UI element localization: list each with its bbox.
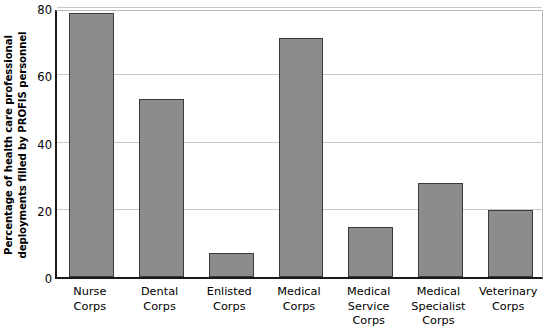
x-tick-label-6: MedicalSpecialistCorps <box>404 285 474 327</box>
x-tick-label-1: NurseCorps <box>55 285 125 314</box>
x-axis-tick-labels: NurseCorpsDentalCorpsEnlistedCorpsMedica… <box>55 285 543 327</box>
gridline-80 <box>57 7 542 8</box>
bar-5 <box>348 227 393 277</box>
y-axis-tick-labels: 020406080 <box>24 0 52 290</box>
y-axis-title-line-1: Percentage of health care professional <box>2 31 16 258</box>
y-tick-label-0: 0 <box>26 273 52 285</box>
x-tick-label-2: DentalCorps <box>125 285 195 314</box>
bar-3 <box>209 253 254 277</box>
bars-layer <box>57 11 542 277</box>
y-tick-label-20: 20 <box>26 206 52 218</box>
bar-1 <box>69 13 114 277</box>
y-tick-label-80: 80 <box>26 4 52 16</box>
x-tick-label-7: VeterinaryCorps <box>473 285 543 314</box>
bar-2 <box>139 99 184 277</box>
x-tick-label-5: MedicalServiceCorps <box>334 285 404 327</box>
bar-chart: Percentage of health care professional d… <box>0 0 555 327</box>
bar-7 <box>488 210 533 277</box>
bar-4 <box>279 38 324 277</box>
y-tick-label-60: 60 <box>26 71 52 83</box>
x-tick-label-4: MedicalCorps <box>264 285 334 314</box>
bar-6 <box>418 183 463 277</box>
y-tick-label-40: 40 <box>26 139 52 151</box>
plot-area <box>55 10 543 279</box>
x-tick-label-3: EnlistedCorps <box>194 285 264 314</box>
